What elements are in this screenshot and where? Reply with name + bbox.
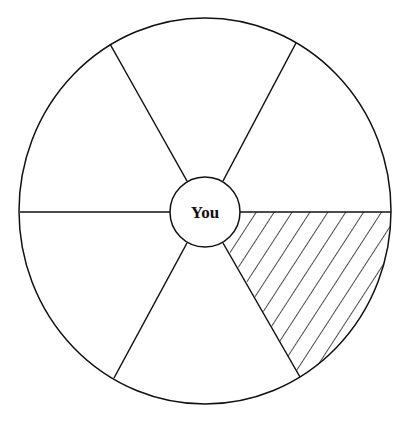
highlighted-segment xyxy=(223,212,400,420)
spoke-upper-right xyxy=(223,43,296,181)
spoke-lower-left xyxy=(114,243,187,378)
spoke-upper-left xyxy=(110,44,187,181)
center-label: You xyxy=(191,203,219,222)
social-circle-diagram: You xyxy=(0,0,409,424)
